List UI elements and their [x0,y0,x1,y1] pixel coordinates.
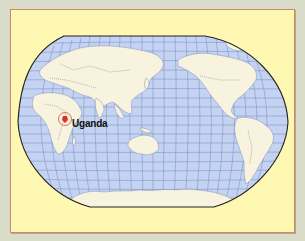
antarctica [70,189,240,215]
world-map [0,0,305,241]
uganda-label: Uganda [72,118,107,129]
